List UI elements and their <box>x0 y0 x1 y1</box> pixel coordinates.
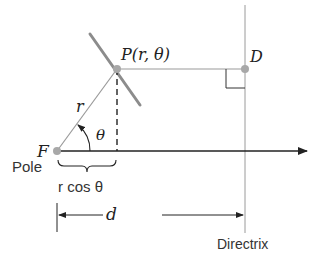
label-directrix: Directrix <box>217 236 268 252</box>
label-point-d: D <box>249 47 263 66</box>
label-point-p: P(r, θ) <box>120 45 170 64</box>
label-pole: Pole <box>12 158 42 175</box>
angle-arc <box>78 125 90 151</box>
segment-fp <box>57 69 117 151</box>
label-angle: θ <box>96 126 105 144</box>
projection-brace <box>58 160 116 172</box>
conic-polar-diagram: P(r, θ) D r θ F Pole r cos θ d Directrix <box>0 0 316 265</box>
point-d <box>241 65 249 73</box>
label-distance: d <box>106 204 117 224</box>
focus-point <box>53 147 61 155</box>
label-radius: r <box>76 97 85 116</box>
right-angle-marker <box>226 69 245 88</box>
label-projection: r cos θ <box>58 178 103 195</box>
point-p <box>113 65 121 73</box>
